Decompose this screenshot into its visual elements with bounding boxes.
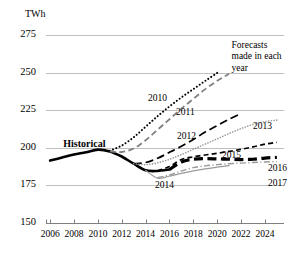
forecasts-annotation-line-3: year — [232, 63, 282, 75]
x-tick-label-2022: 2022 — [228, 229, 254, 239]
label-2014: 2014 — [155, 180, 174, 190]
label-2013: 2013 — [253, 121, 272, 131]
x-tick-label-2008: 2008 — [61, 229, 87, 239]
x-tick-label-2016: 2016 — [156, 229, 182, 239]
historical-label: Historical — [63, 138, 105, 149]
x-tick-label-2020: 2020 — [204, 229, 230, 239]
y-tick-label-250: 250 — [8, 66, 36, 77]
label-2010: 2010 — [148, 93, 167, 103]
series-lines-group — [50, 73, 277, 179]
x-axis-line-group — [46, 220, 284, 224]
forecasts-annotation-line-2: made in each — [232, 51, 282, 63]
label-2016: 2016 — [268, 163, 287, 173]
x-tick-label-2024: 2024 — [252, 229, 278, 239]
x-tick-label-2006: 2006 — [37, 229, 63, 239]
x-tick-label-2018: 2018 — [180, 229, 206, 239]
y-tick-label-150: 150 — [8, 216, 36, 227]
x-tick-label-2010: 2010 — [85, 229, 111, 239]
label-2017: 2017 — [268, 178, 287, 188]
y-tick-label-225: 225 — [8, 103, 36, 114]
forecasts-annotation-line-1: Forecasts — [232, 40, 282, 52]
label-2011: 2011 — [176, 107, 195, 117]
series-line-2011 — [110, 74, 229, 152]
x-tick-label-2012: 2012 — [109, 229, 135, 239]
series-line-2010 — [110, 73, 217, 151]
label-2015: 2015 — [222, 150, 241, 160]
y-tick-label-275: 275 — [8, 28, 36, 39]
label-2012: 2012 — [177, 131, 196, 141]
y-tick-label-175: 175 — [8, 178, 36, 189]
x-tick-label-2014: 2014 — [133, 229, 159, 239]
forecasts-annotation: Forecastsmade in eachyear — [232, 40, 282, 75]
y-tick-label-200: 200 — [8, 141, 36, 152]
chart-container: TWh 275250225200175150 20062008201020122… — [0, 0, 299, 259]
